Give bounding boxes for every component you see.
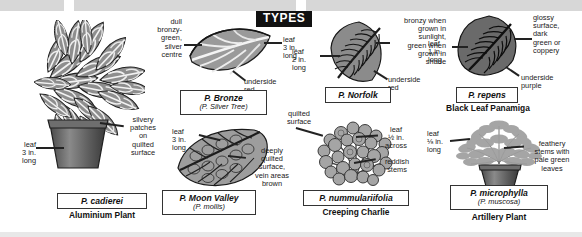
plate-sci-name: P. repens: [463, 90, 511, 100]
plant-types-figure: TYPES: [0, 0, 582, 237]
annotation-nummulariifolia-surface: quiltedsurface: [279, 110, 319, 126]
plate-synonym: (P. muscosa): [457, 198, 541, 207]
plate-microphylla: P. microphylla (P. muscosa): [450, 185, 548, 210]
plate-moon-valley: P. Moon Valley (P. mollis): [162, 190, 256, 215]
scan-band-gap-left: [64, 0, 74, 11]
plate-sci-name: P. cadierei: [64, 196, 140, 206]
plate-nummulariifolia: P. nummulariifolia: [303, 190, 409, 206]
annotation-repens-surface: glossysurface,darkgreen orcoppery: [533, 14, 581, 55]
leader-line: [184, 44, 202, 46]
plate-norfolk: P. Norfolk: [325, 87, 391, 103]
scan-band-gap-right: [296, 0, 306, 11]
leader-line: [452, 46, 468, 48]
annotation-nummulariifolia-stems: reddishstems: [378, 158, 416, 174]
leader-line: [36, 147, 64, 149]
plate-repens: P. repens: [456, 87, 518, 103]
common-name-microphylla: Artillery Plant: [447, 213, 551, 222]
annotation-cadierei-leaf-size: leaf3 in.long: [2, 141, 36, 166]
annotation-microphylla-stems: featherystems withpale greenleaves: [525, 140, 579, 173]
annotation-norfolk-underside: undersidered: [388, 76, 436, 92]
annotation-repens-underside: undersidepurple: [521, 74, 569, 90]
annotation-nummulariifolia-leaf-size: leaf½ in.across: [379, 126, 413, 151]
plate-sci-name: P. nummulariifolia: [310, 193, 402, 203]
scan-band-top: [0, 0, 582, 11]
common-name-cadierei: Aluminium Plant: [47, 211, 157, 220]
illustration-bronze: [186, 22, 278, 84]
annotation-bronze-colour: dullbronzy-green,silvercentre: [140, 18, 182, 59]
annotation-moon-valley-surface: deeplyquiltedsurface,vein areasbrown: [246, 147, 298, 188]
annotation-microphylla-leaf-size: leaf⅛ in.long: [427, 130, 457, 155]
plate-bronze: P. Bronze (P. Silver Tree): [180, 90, 267, 115]
annotation-cadierei-surface: silverypatchesonquiltedsurface: [124, 116, 162, 157]
plate-synonym: (P. mollis): [169, 203, 249, 212]
scan-band-bottom: [0, 232, 582, 237]
leader-line: [376, 42, 390, 44]
annotation-repens-leaf-size: leaf1 in.long: [428, 40, 460, 65]
plate-sci-name: P. Norfolk: [332, 90, 384, 100]
plate-synonym: (P. Silver Tree): [187, 103, 260, 112]
annotation-norfolk-leaf-size: leaf2 in.long: [292, 48, 326, 73]
leader-line: [514, 38, 532, 40]
leader-line: [320, 55, 340, 57]
common-name-nummulariifolia: Creeping Charlie: [300, 208, 412, 217]
leader-line: [264, 42, 282, 44]
plate-cadierei: P. cadierei: [57, 193, 147, 209]
annotation-moon-valley-leaf-size: leaf3 in.long: [172, 128, 204, 153]
